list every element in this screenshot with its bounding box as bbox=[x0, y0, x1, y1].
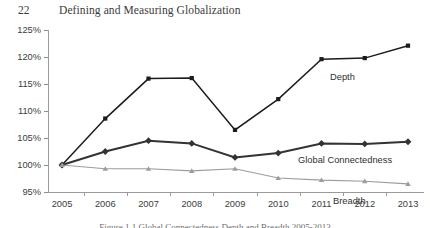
data-point-marker bbox=[188, 140, 195, 147]
page: 22 Defining and Measuring Globalization … bbox=[0, 0, 430, 228]
data-point-marker bbox=[363, 56, 367, 60]
data-point-marker bbox=[232, 154, 239, 161]
x-axis-tick bbox=[170, 192, 171, 196]
page-number: 22 bbox=[18, 4, 30, 16]
page-header: 22 Defining and Measuring Globalization bbox=[0, 0, 430, 26]
data-point-marker bbox=[233, 128, 237, 132]
x-axis-tick-label: 2007 bbox=[138, 199, 159, 209]
data-point-marker bbox=[146, 77, 150, 81]
x-axis-tick bbox=[300, 192, 301, 196]
data-point-marker bbox=[190, 76, 194, 80]
x-axis-tick bbox=[127, 192, 128, 196]
running-head-title: Defining and Measuring Globalization bbox=[59, 4, 241, 16]
x-axis-tick bbox=[84, 192, 85, 196]
data-point-marker bbox=[318, 140, 325, 147]
data-point-marker bbox=[275, 150, 282, 157]
x-axis-tick-label: 2006 bbox=[95, 199, 116, 209]
x-axis-tick bbox=[257, 192, 258, 196]
data-point-marker bbox=[145, 137, 152, 144]
x-axis-tick bbox=[213, 192, 214, 196]
x-axis-tick-label: 2011 bbox=[312, 199, 332, 209]
x-axis-tick-label: 2005 bbox=[52, 199, 73, 209]
y-axis-tick bbox=[44, 57, 48, 58]
y-axis-tick bbox=[44, 111, 48, 112]
data-point-marker bbox=[102, 148, 109, 155]
series-breadth bbox=[59, 162, 410, 185]
x-axis-tick-label: 2010 bbox=[268, 199, 289, 209]
data-point-marker bbox=[276, 97, 280, 101]
series-label-breadth: Breadth bbox=[333, 196, 366, 206]
series-line bbox=[62, 46, 408, 165]
series-label-global-connectedness: Global Connectedness bbox=[298, 155, 392, 165]
line-chart: 95%100%105%110%115%120%125% 200520062007… bbox=[0, 26, 430, 228]
y-axis-tick bbox=[44, 138, 48, 139]
series-label-depth: Depth bbox=[330, 72, 355, 82]
data-point-marker bbox=[406, 44, 410, 48]
data-point-marker bbox=[405, 138, 412, 145]
data-point-marker bbox=[319, 57, 323, 61]
x-axis-tick bbox=[386, 192, 387, 196]
figure-caption: Figure 1.1 Global Connectedness Depth an… bbox=[0, 222, 430, 228]
x-axis-tick-label: 2009 bbox=[225, 199, 246, 209]
data-point-marker bbox=[361, 141, 368, 148]
x-axis-tick-label: 2013 bbox=[398, 199, 419, 209]
x-axis-tick-label: 2008 bbox=[181, 199, 202, 209]
y-axis-tick bbox=[44, 192, 48, 193]
y-axis-tick bbox=[44, 30, 48, 31]
series-depth bbox=[60, 44, 410, 168]
y-axis-tick bbox=[44, 165, 48, 166]
y-axis-tick bbox=[44, 84, 48, 85]
data-point-marker bbox=[103, 116, 107, 120]
